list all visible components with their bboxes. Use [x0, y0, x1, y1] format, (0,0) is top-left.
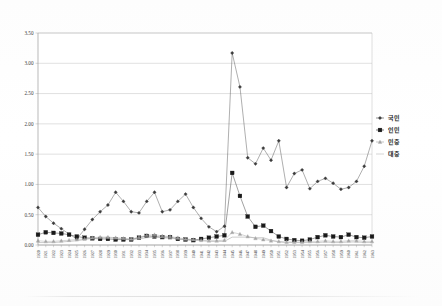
data-point-marker [370, 235, 374, 239]
y-tick-label: 3.00 [24, 60, 33, 66]
x-tick-label: 1924 [67, 249, 72, 258]
y-tick-label: 2.00 [24, 121, 33, 127]
x-tick-label: 1934 [144, 249, 149, 258]
x-tick-label: 1949 [261, 250, 266, 259]
x-tick-label: 1923 [59, 250, 64, 259]
x-tick-label: 1941 [199, 250, 204, 259]
data-point-marker [378, 128, 382, 132]
legend-label: 대중 [388, 150, 400, 158]
y-tick-label: 1.50 [24, 151, 33, 157]
x-tick-label: 1960 [346, 250, 351, 259]
data-point-marker [339, 235, 343, 239]
legend-label: 인민 [388, 126, 400, 134]
x-tick-label: 1933 [137, 250, 142, 259]
chart-legend: 국민인민민중대중 [376, 114, 400, 158]
y-tick-label: 1.00 [24, 181, 33, 187]
x-tick-label: 1940 [191, 250, 196, 259]
x-tick-label: 1962 [362, 250, 367, 259]
x-tick-label: 1929 [106, 250, 111, 259]
x-tick-label: 1961 [354, 250, 359, 259]
x-tick-label: 1952 [284, 250, 289, 259]
x-tick-label: 1947 [245, 249, 250, 258]
x-tick-label: 1958 [331, 250, 336, 259]
x-tick-label: 1956 [315, 249, 320, 258]
legend-label: 국민 [388, 114, 400, 122]
x-tick-label: 1959 [339, 250, 344, 259]
data-point-marker [331, 235, 335, 239]
x-tick-label: 1930 [113, 250, 118, 259]
data-point-marker [59, 232, 63, 236]
data-point-marker [323, 233, 327, 237]
x-tick-label: 1946 [238, 249, 243, 258]
x-tick-label: 1935 [152, 250, 157, 259]
data-point-marker [44, 230, 48, 234]
x-tick-label: 1932 [129, 250, 134, 259]
x-tick-label: 1928 [98, 250, 103, 259]
data-point-marker [36, 233, 40, 237]
data-point-marker [254, 225, 258, 229]
x-tick-label: 1954 [300, 249, 305, 258]
data-point-marker [277, 235, 281, 239]
x-tick-label: 1931 [121, 250, 126, 259]
x-axis-labels: 1920192119221923192419251926192719281929… [36, 245, 375, 259]
y-tick-label: 2.50 [24, 90, 33, 96]
x-tick-label: 1939 [183, 250, 188, 259]
chart-figure: 0.000.501.001.502.002.503.003.5019201921… [0, 0, 442, 306]
x-tick-label: 1943 [214, 250, 219, 259]
data-point-marker [347, 233, 351, 237]
x-tick-label: 1925 [74, 250, 79, 259]
footer-divider [24, 296, 418, 297]
x-tick-label: 1950 [269, 250, 274, 259]
data-point-marker [223, 233, 227, 237]
data-point-marker [269, 229, 273, 233]
x-tick-label: 1963 [370, 250, 375, 259]
data-point-marker [67, 233, 71, 237]
x-tick-label: 1945 [230, 250, 235, 259]
data-point-marker [316, 235, 320, 239]
x-tick-label: 1938 [175, 250, 180, 259]
y-tick-label: 0.00 [24, 242, 33, 248]
data-point-marker [362, 236, 366, 240]
x-tick-label: 1937 [168, 249, 173, 258]
x-tick-label: 1957 [323, 249, 328, 258]
y-tick-label: 0.50 [24, 212, 33, 218]
x-tick-label: 1951 [276, 250, 281, 259]
x-tick-label: 1944 [222, 249, 227, 258]
x-tick-label: 1920 [36, 250, 41, 259]
x-tick-label: 1942 [206, 250, 211, 259]
data-point-marker [261, 224, 265, 228]
x-tick-label: 1921 [43, 250, 48, 259]
data-point-marker [355, 235, 359, 239]
data-point-marker [52, 231, 56, 235]
data-point-marker [246, 215, 250, 219]
data-point-marker [238, 194, 242, 198]
x-tick-label: 1955 [307, 250, 312, 259]
legend-label: 민중 [388, 138, 400, 146]
x-tick-label: 1927 [90, 249, 95, 258]
data-point-marker [215, 235, 219, 239]
chart-canvas: 0.000.501.001.502.002.503.003.5019201921… [0, 0, 442, 306]
y-tick-label: 3.50 [24, 30, 33, 36]
x-tick-label: 1922 [51, 250, 56, 259]
x-tick-label: 1953 [292, 250, 297, 259]
plot-area [38, 33, 372, 245]
data-point-marker [230, 171, 234, 175]
x-tick-label: 1926 [82, 249, 87, 258]
data-point-marker [378, 116, 381, 119]
x-tick-label: 1936 [160, 249, 165, 258]
x-tick-label: 1948 [253, 250, 258, 259]
